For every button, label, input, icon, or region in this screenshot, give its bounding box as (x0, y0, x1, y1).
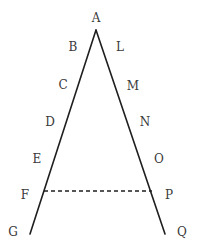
point-label-d: D (45, 116, 55, 128)
point-label-n: N (140, 116, 151, 128)
point-label-b: B (69, 41, 78, 53)
point-label-c: C (58, 79, 67, 91)
point-label-e: E (33, 153, 42, 165)
point-label-m: M (127, 80, 139, 92)
right-side-line (96, 30, 165, 234)
point-label-a: A (92, 12, 101, 24)
left-side-line (30, 30, 96, 234)
point-label-f: F (21, 189, 29, 201)
point-label-o: O (154, 153, 164, 165)
point-label-p: P (165, 189, 173, 201)
point-label-q: Q (177, 226, 187, 238)
triangle-lines (0, 0, 200, 249)
point-label-l: L (116, 41, 124, 53)
triangle-diagram: A B C D E F G L M N O P Q (0, 0, 200, 249)
point-label-g: G (8, 226, 18, 238)
